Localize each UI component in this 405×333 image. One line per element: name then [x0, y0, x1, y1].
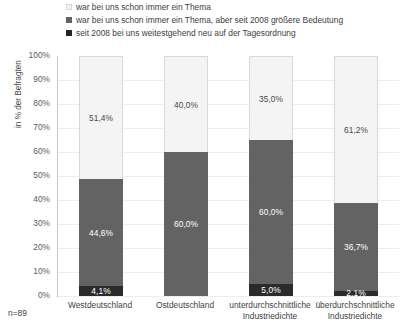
bar-segment-value-label: 2,1%: [346, 288, 366, 298]
bar-segment[interactable]: 36,7%: [334, 203, 378, 291]
legend-swatch-medium-icon: [66, 17, 72, 23]
bar-segment[interactable]: 35,0%: [249, 56, 293, 140]
y-axis-tick-label: 20%: [0, 242, 50, 252]
x-label-line: Industriedichte: [222, 311, 318, 322]
x-label-line: Ostdeutschland: [137, 300, 233, 311]
x-label-line: überdurchschnittliche: [307, 300, 403, 311]
x-label-line: Westdeutschland: [52, 300, 148, 311]
y-axis-title: in % der Befragten: [14, 60, 23, 128]
plot-area: 100%90%80%70%60%50%40%30%20%10%0%51,4%44…: [57, 56, 399, 297]
y-axis-tick-label: 60%: [0, 146, 50, 156]
bar-segment[interactable]: 51,4%: [79, 56, 123, 179]
bar-segment[interactable]: 5,0%: [249, 284, 293, 296]
y-axis-tick-label: 90%: [0, 74, 50, 84]
legend-swatch-dark-icon: [66, 30, 72, 36]
y-axis-tick-label: 40%: [0, 194, 50, 204]
y-axis-tick-label: 50%: [0, 170, 50, 180]
legend-item-always-topic[interactable]: war bei uns schon immer ein Thema: [66, 1, 401, 14]
bar-segment-value-label: 60,0%: [174, 219, 198, 229]
bar-segment-value-label: 5,0%: [261, 285, 281, 295]
bar-segment-value-label: 4,1%: [91, 286, 111, 296]
sample-size-note: n=89: [8, 308, 27, 318]
legend-swatch-light-icon: [66, 4, 72, 10]
bar-1[interactable]: 51,4%44,6%4,1%: [79, 56, 123, 296]
bar-3[interactable]: 35,0%60,0%5,0%: [249, 56, 293, 296]
bar-segment-value-label: 44,6%: [89, 228, 113, 238]
bar-segment[interactable]: 60,0%: [249, 140, 293, 284]
bar-segment-value-label: 61,2%: [344, 125, 368, 135]
y-axis-tick-label: 0%: [0, 290, 50, 300]
legend-item-greater-importance[interactable]: war bei uns schon immer ein Thema, aber …: [66, 14, 401, 27]
legend-item-label: seit 2008 bei uns weitestgehend neu auf …: [76, 27, 296, 40]
x-axis-category-label: überdurchschnittlicheIndustriedichte: [307, 300, 403, 321]
x-label-line: unterdurchschnittliche: [222, 300, 318, 311]
x-axis-category-label: unterdurchschnittlicheIndustriedichte: [222, 300, 318, 321]
legend-item-label: war bei uns schon immer ein Thema: [76, 1, 211, 14]
bar-2[interactable]: 40,0%60,0%: [164, 56, 208, 296]
y-axis-tick-label: 30%: [0, 218, 50, 228]
bar-segment-value-label: 35,0%: [259, 94, 283, 104]
bar-segment[interactable]: 44,6%: [79, 179, 123, 286]
y-axis-tick-label: 10%: [0, 266, 50, 276]
bar-4[interactable]: 61,2%36,7%2,1%: [334, 56, 378, 296]
legend-item-label: war bei uns schon immer ein Thema, aber …: [76, 14, 343, 27]
bar-segment-value-label: 40,0%: [174, 100, 198, 110]
bar-segment[interactable]: 61,2%: [334, 56, 378, 203]
y-axis-tick-label: 70%: [0, 122, 50, 132]
x-axis-category-label: Westdeutschland: [52, 300, 148, 311]
bar-segment-value-label: 51,4%: [89, 113, 113, 123]
bar-segment[interactable]: 2,1%: [334, 291, 378, 296]
x-axis-labels: WestdeutschlandOstdeutschlandunterdurchs…: [57, 300, 398, 333]
bar-segment-value-label: 36,7%: [344, 242, 368, 252]
x-label-line: Industriedichte: [307, 311, 403, 322]
stacked-bar-chart: war bei uns schon immer ein Thema war be…: [0, 0, 405, 333]
y-axis-tick-label: 80%: [0, 98, 50, 108]
bar-segment-value-label: 60,0%: [259, 207, 283, 217]
chart-legend: war bei uns schon immer ein Thema war be…: [66, 1, 401, 40]
bar-segment[interactable]: 4,1%: [79, 286, 123, 296]
y-axis-tick-label: 100%: [0, 50, 50, 60]
x-axis-category-label: Ostdeutschland: [137, 300, 233, 311]
bar-segment[interactable]: 60,0%: [164, 152, 208, 296]
bar-segment[interactable]: 40,0%: [164, 56, 208, 152]
legend-item-new-since-2008[interactable]: seit 2008 bei uns weitestgehend neu auf …: [66, 27, 401, 40]
